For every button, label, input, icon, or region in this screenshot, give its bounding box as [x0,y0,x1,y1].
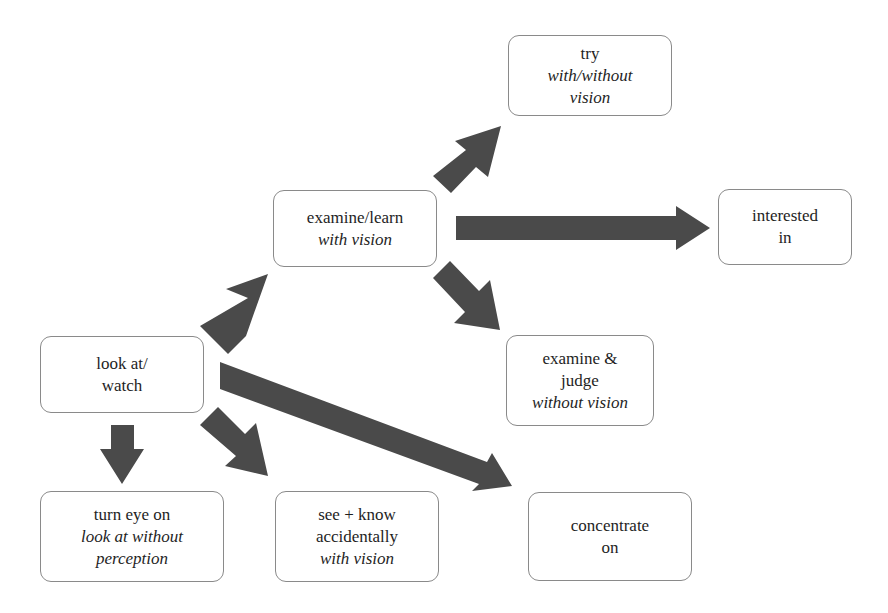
node-interested-in-line-1: interested [752,205,818,227]
arrow-look-to-turn-eye [100,425,144,484]
node-look-at-line-2: watch [102,375,143,397]
node-try: try with/without vision [508,35,672,116]
arrow-look-to-see-know [200,407,268,476]
node-concentrate-on-line-1: concentrate [571,515,649,537]
node-examine-judge-line-3: without vision [532,392,628,414]
node-examine-judge: examine & judge without vision [506,335,654,426]
arrow-examine-learn-to-interested [456,206,710,250]
node-try-line-3: vision [570,87,611,109]
node-examine-learn-line-2: with vision [318,229,392,251]
node-see-know: see + know accidentally with vision [275,491,439,582]
node-interested-in-line-2: in [778,227,791,249]
node-turn-eye-on-line-1: turn eye on [94,504,170,526]
node-turn-eye-on-line-3: perception [96,548,168,570]
arrow-look-to-examine-learn [200,274,268,354]
node-see-know-line-2: accidentally [316,526,398,548]
node-try-line-2: with/without [547,65,632,87]
node-turn-eye-on-line-2: look at without [81,526,183,548]
node-interested-in: interested in [718,189,852,265]
node-examine-judge-line-2: judge [561,370,599,392]
node-see-know-line-1: see + know [318,504,396,526]
node-turn-eye-on: turn eye on look at without perception [40,491,224,582]
node-try-line-1: try [581,43,600,65]
node-concentrate-on-line-2: on [602,537,619,559]
node-examine-judge-line-1: examine & [542,348,617,370]
node-look-at-line-1: look at/ [96,353,147,375]
node-concentrate-on: concentrate on [528,492,692,581]
node-look-at-watch: look at/ watch [40,336,204,413]
node-examine-learn: examine/learn with vision [273,190,437,267]
node-examine-learn-line-1: examine/learn [307,207,403,229]
node-see-know-line-3: with vision [320,548,394,570]
arrow-examine-learn-to-examine-judge [433,261,500,330]
flow-diagram: try with/without vision examine/learn wi… [0,0,888,613]
arrow-examine-learn-to-try [433,126,501,193]
